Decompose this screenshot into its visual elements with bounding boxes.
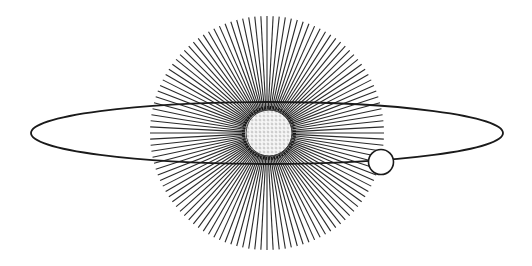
sun: [246, 110, 292, 156]
solar-system-illustration: [0, 0, 532, 266]
planet: [369, 150, 394, 175]
